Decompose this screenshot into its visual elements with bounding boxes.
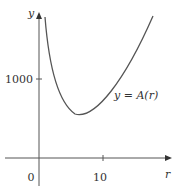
y-axis-arrow-icon (36, 12, 42, 19)
x-tick-label-0: 0 (28, 171, 35, 184)
chart: 10 0 1000 r y y = A(r) (0, 0, 180, 192)
curve-label: y = A(r) (113, 89, 158, 102)
y-axis-label: y (27, 7, 35, 20)
x-tick-label-10: 10 (93, 171, 107, 184)
y-tick-label-1000: 1000 (5, 73, 33, 86)
x-axis-arrow-icon (165, 155, 172, 161)
x-axis-label: r (165, 168, 171, 181)
